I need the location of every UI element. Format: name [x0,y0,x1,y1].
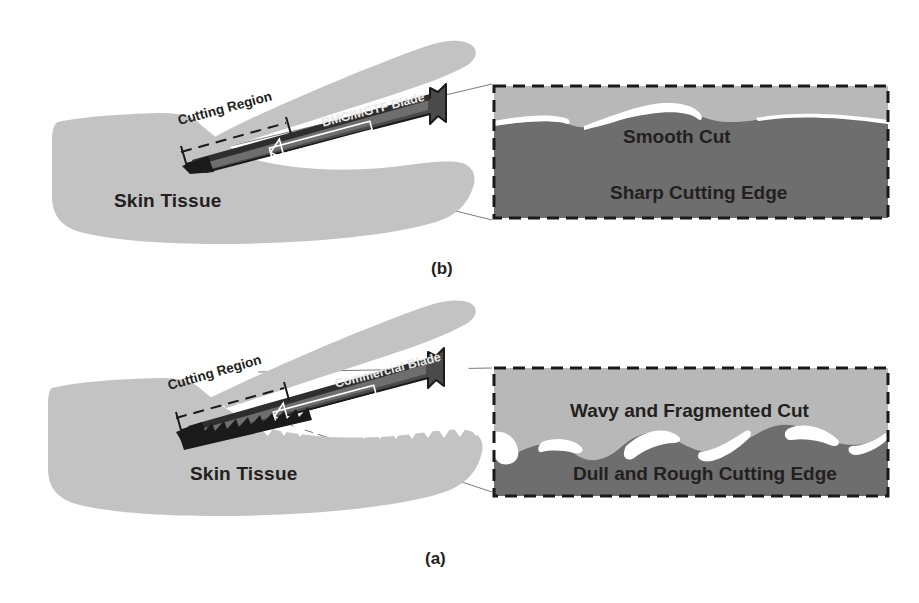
skin-tissue-body-a [48,378,483,516]
panel-b-illustration [0,0,919,300]
inset-upper-label-a: Wavy and Fragmented Cut [570,400,809,422]
panel-caption-a: (a) [425,549,446,569]
panel-a [0,300,919,603]
panel-caption-b: (b) [431,259,453,279]
panel-b: Skin Tissue Cutting Region BMG/MGTF Blad… [0,0,919,300]
skin-tissue-label-a: Skin Tissue [190,463,297,485]
inset-lower-label-b: Sharp Cutting Edge [610,182,787,204]
skin-tissue-label-b: Skin Tissue [114,190,221,212]
inset-lower-label-a: Dull and Rough Cutting Edge [573,463,837,485]
inset-upper-label-b: Smooth Cut [623,126,731,148]
figure-root: Skin Tissue Cutting Region BMG/MGTF Blad… [0,0,919,603]
panel-a-illustration [0,300,919,603]
